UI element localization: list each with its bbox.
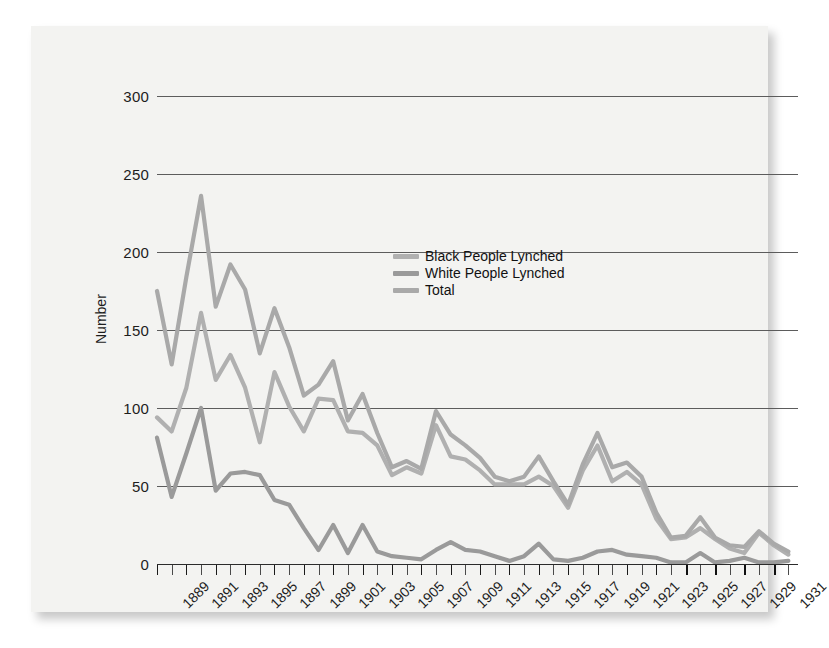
x-tick: [612, 565, 613, 575]
x-tick: [421, 565, 422, 575]
x-tick: [274, 565, 275, 575]
x-tick: [216, 565, 217, 575]
legend-label: Black People Lynched: [425, 248, 563, 265]
x-tick: [686, 565, 688, 575]
series-line: [157, 408, 788, 562]
x-tick: [598, 565, 599, 575]
y-tick-label: 300: [123, 88, 149, 105]
x-tick: [627, 565, 628, 575]
x-tick-label: 1911: [502, 578, 535, 611]
y-tick-label: 0: [140, 556, 149, 573]
x-tick: [642, 565, 643, 575]
x-tick: [260, 565, 261, 575]
x-tick-label: 1915: [561, 578, 594, 611]
chart-page: Number 300250200150100500 18891891189318…: [0, 0, 829, 648]
x-tick: [480, 565, 481, 575]
x-tick: [348, 565, 349, 575]
x-tick: [289, 565, 290, 575]
legend-item: Total: [393, 282, 565, 299]
x-tick-label: 1925: [708, 578, 741, 611]
x-tick: [744, 565, 746, 575]
y-axis-tick-labels: 300250200150100500: [31, 96, 149, 564]
x-tick-label: 1913: [532, 578, 565, 611]
x-tick: [407, 565, 408, 575]
x-tick: [392, 565, 393, 575]
x-tick: [553, 565, 554, 575]
y-tick-label: 150: [123, 322, 149, 339]
x-tick: [730, 565, 731, 575]
x-tick: [436, 565, 437, 575]
series-lines: [157, 96, 798, 564]
x-tick: [201, 565, 202, 575]
legend-swatch-icon: [393, 254, 419, 259]
x-tick: [495, 565, 496, 575]
x-tick-label: 1923: [678, 578, 711, 611]
x-tick: [451, 565, 452, 575]
x-tick-label: 1901: [355, 578, 388, 611]
x-tick-label: 1927: [737, 578, 770, 611]
x-tick-label: 1889: [179, 578, 212, 611]
x-tick: [186, 565, 187, 575]
x-tick-label: 1909: [473, 578, 506, 611]
x-tick: [245, 565, 246, 575]
x-tick: [465, 565, 466, 575]
x-tick-label: 1895: [267, 578, 300, 611]
x-tick: [157, 565, 158, 575]
legend-label: Total: [425, 282, 455, 299]
x-tick-label: 1931: [796, 578, 829, 611]
x-tick: [656, 565, 657, 575]
x-tick: [774, 565, 776, 575]
x-tick-label: 1891: [208, 578, 241, 611]
x-tick: [539, 565, 540, 575]
y-tick-label: 100: [123, 400, 149, 417]
x-tick-label: 1929: [766, 578, 799, 611]
x-tick-label: 1917: [590, 578, 623, 611]
legend-swatch-icon: [393, 288, 419, 293]
x-tick: [363, 565, 364, 575]
x-tick-label: 1899: [326, 578, 359, 611]
x-tick: [583, 565, 584, 575]
x-tick: [304, 565, 305, 575]
x-tick-label: 1921: [649, 578, 682, 611]
x-tick: [319, 565, 320, 575]
x-tick-label: 1907: [443, 578, 476, 611]
x-tick-label: 1893: [238, 578, 271, 611]
x-tick: [759, 565, 760, 575]
x-tick-label: 1903: [385, 578, 418, 611]
x-tick: [700, 565, 701, 575]
legend-label: White People Lynched: [425, 265, 565, 282]
x-tick: [172, 565, 173, 575]
x-tick: [671, 565, 672, 575]
chart-panel: Number 300250200150100500 18891891189318…: [31, 26, 768, 612]
x-tick: [524, 565, 525, 575]
plot-area: [157, 96, 798, 564]
x-tick: [715, 565, 717, 575]
x-axis-ticks: [157, 565, 798, 577]
x-tick-label: 1919: [620, 578, 653, 611]
x-tick: [230, 565, 231, 575]
y-tick-label: 50: [132, 478, 149, 495]
legend-swatch-icon: [393, 271, 419, 276]
x-tick: [377, 565, 378, 575]
x-axis-tick-labels: 1889189118931895189718991901190319051907…: [157, 578, 798, 634]
x-tick: [509, 565, 510, 575]
x-tick-label: 1905: [414, 578, 447, 611]
x-tick: [333, 565, 334, 575]
y-tick-label: 200: [123, 244, 149, 261]
x-tick: [788, 565, 789, 575]
legend-item: Black People Lynched: [393, 248, 565, 265]
x-tick: [568, 565, 569, 575]
chart-legend: Black People LynchedWhite People Lynched…: [393, 248, 565, 299]
y-tick-label: 250: [123, 166, 149, 183]
x-tick-label: 1897: [297, 578, 330, 611]
legend-item: White People Lynched: [393, 265, 565, 282]
series-line: [157, 313, 788, 555]
